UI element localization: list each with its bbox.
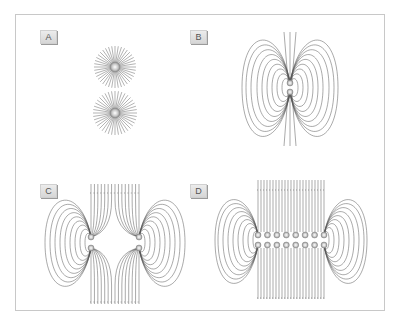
charge-icon (293, 232, 299, 238)
charge-icon (264, 242, 270, 248)
charge-icon (321, 242, 327, 248)
charge-icon (255, 232, 261, 238)
charge-icon (302, 232, 308, 238)
panel-a-radial-charges (93, 46, 137, 135)
charge-icon (136, 245, 142, 251)
charge-icon (110, 108, 120, 118)
charge-icon (293, 242, 299, 248)
charge-icon (136, 234, 142, 240)
charge-icon (287, 89, 293, 95)
charge-icon (264, 232, 270, 238)
charge-icon (110, 62, 120, 72)
charge-icon (274, 242, 280, 248)
charge-icon (312, 232, 318, 238)
charge-icon (312, 242, 318, 248)
charge-icon (88, 234, 94, 240)
panel-d-dipole-row (215, 180, 367, 299)
charge-icon (283, 242, 289, 248)
charge-icon (283, 232, 289, 238)
panel-c-two-dipoles (45, 184, 185, 304)
charge-icon (274, 232, 280, 238)
charge-icon (302, 242, 308, 248)
field-line-diagram (0, 0, 403, 323)
charge-icon (287, 80, 293, 86)
panel-b-dipole (242, 32, 338, 146)
charge-icon (321, 232, 327, 238)
charge-icon (88, 245, 94, 251)
charge-icon (255, 242, 261, 248)
